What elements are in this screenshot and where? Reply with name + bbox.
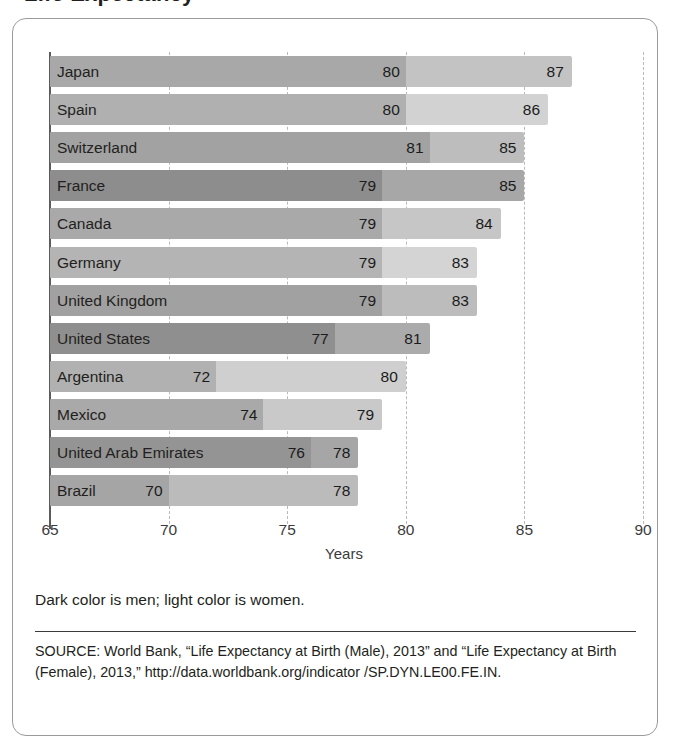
bar-category-label: Mexico [57, 399, 106, 430]
bar-value-male: 77 [311, 323, 334, 354]
bar-value-male: 72 [193, 361, 216, 392]
bar-category-label: France [57, 170, 105, 201]
bar-value-male: 70 [145, 475, 168, 506]
bar-row[interactable]: Argentina7280 [50, 361, 406, 392]
bar-row[interactable]: United Arab Emirates7678 [50, 437, 358, 468]
bar-segment-male [50, 94, 406, 125]
bar-category-label: Switzerland [57, 132, 137, 163]
bar-value-male: 80 [383, 56, 406, 87]
bar-value-female: 80 [381, 361, 406, 392]
bar-category-label: United Arab Emirates [57, 437, 203, 468]
bar-value-female: 87 [547, 56, 572, 87]
bar-value-female: 83 [452, 247, 477, 278]
bar-value-female: 78 [333, 475, 358, 506]
bar-value-female: 86 [523, 94, 548, 125]
bar-segment-female [169, 475, 359, 506]
x-tick-label-75: 75 [279, 521, 296, 539]
bar-value-female: 79 [357, 399, 382, 430]
bar-segment-female [216, 361, 406, 392]
bar-row[interactable]: United Kingdom7983 [50, 285, 477, 316]
source-note: SOURCE: World Bank, “Life Expectancy at … [35, 641, 641, 682]
bar-row[interactable]: United States7781 [50, 323, 430, 354]
bar-row[interactable]: Germany7983 [50, 247, 477, 278]
divider-rule [35, 631, 636, 632]
legend-note: Dark color is men; light color is women. [35, 591, 305, 609]
bar-category-label: Germany [57, 247, 121, 278]
bar-value-male: 81 [406, 132, 429, 163]
chart-panel: Japan8087Spain8086Switzerland8185France7… [12, 18, 658, 736]
bar-value-female: 84 [475, 208, 500, 239]
bar-value-female: 83 [452, 285, 477, 316]
x-tick-label-85: 85 [516, 521, 533, 539]
bar-value-male: 76 [288, 437, 311, 468]
x-tick-label-90: 90 [634, 521, 651, 539]
gridline-90 [643, 52, 644, 524]
bar-row[interactable]: Canada7984 [50, 208, 501, 239]
bar-category-label: United States [57, 323, 150, 354]
x-axis-title: Years [325, 545, 363, 562]
bar-row[interactable]: Japan8087 [50, 56, 572, 87]
x-tick-label-80: 80 [397, 521, 414, 539]
bar-value-male: 79 [359, 247, 382, 278]
clipped-title-strip: Life Expectancy [0, 0, 673, 16]
bar-category-label: Canada [57, 208, 111, 239]
bar-row[interactable]: Mexico7479 [50, 399, 382, 430]
page-title: Life Expectancy [24, 0, 195, 7]
bar-category-label: United Kingdom [57, 285, 167, 316]
bar-value-male: 74 [240, 399, 263, 430]
x-tick-label-65: 65 [41, 521, 58, 539]
bar-segment-male [50, 56, 406, 87]
bar-value-female: 78 [333, 437, 358, 468]
bar-value-female: 81 [404, 323, 429, 354]
bar-category-label: Japan [57, 56, 99, 87]
x-axis: 657075808590 Years [13, 519, 659, 571]
bar-row[interactable]: Spain8086 [50, 94, 548, 125]
bar-row[interactable]: Brazil7078 [50, 475, 358, 506]
bar-category-label: Spain [57, 94, 97, 125]
bar-value-male: 79 [359, 170, 382, 201]
bar-value-female: 85 [499, 170, 524, 201]
bar-row[interactable]: Switzerland8185 [50, 132, 524, 163]
x-tick-label-70: 70 [160, 521, 177, 539]
bar-category-label: Argentina [57, 361, 123, 392]
plot-area: Japan8087Spain8086Switzerland8185France7… [13, 19, 659, 519]
bar-row[interactable]: France7985 [50, 170, 524, 201]
bar-value-male: 79 [359, 208, 382, 239]
bar-value-male: 79 [359, 285, 382, 316]
bar-value-male: 80 [383, 94, 406, 125]
bar-category-label: Brazil [57, 475, 96, 506]
bar-value-female: 85 [499, 132, 524, 163]
